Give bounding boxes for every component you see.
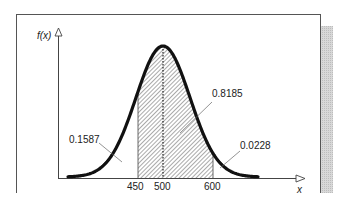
side-shadow-strip [321,26,333,193]
tick-label-450: 450 [127,182,144,192]
annotation-right-area: 0.0228 [240,141,271,151]
tick-label-500: 500 [154,182,171,192]
y-axis-arrow-icon [55,28,62,36]
y-axis [55,28,62,178]
annotation-center-area: 0.8185 [212,89,243,99]
normal-distribution-chart [0,0,346,202]
y-axis-label-text: f(x) [37,30,51,41]
annotation-left-area: 0.1587 [69,135,100,145]
y-axis-label: f(x) [37,31,51,41]
x-axis-label: x [297,185,302,195]
tick-label-600: 600 [204,182,221,192]
leader-right-area [220,151,240,168]
x-axis-arrow-icon [296,175,305,182]
